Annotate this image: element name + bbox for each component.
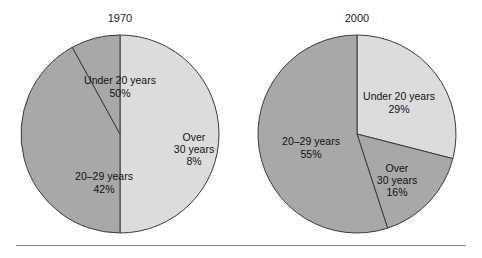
slice-label: 20–29 years [282,135,340,147]
slice-value: 16% [386,186,407,198]
slice-value: 55% [300,148,321,160]
pie-chart-2000: 2000Under 20 years29%Over30 years16%20–2… [0,0,482,258]
slice-label: 30 years [377,174,417,186]
slice-label: Under 20 years [363,90,435,102]
chart-title-2000: 2000 [345,12,369,24]
slice-label: Over [386,162,409,174]
footer-divider-rule [16,245,466,246]
slice-value: 29% [388,103,409,115]
pie-chart-figure: 1970Under 20 years50%20–29 years42%Over3… [0,0,482,258]
